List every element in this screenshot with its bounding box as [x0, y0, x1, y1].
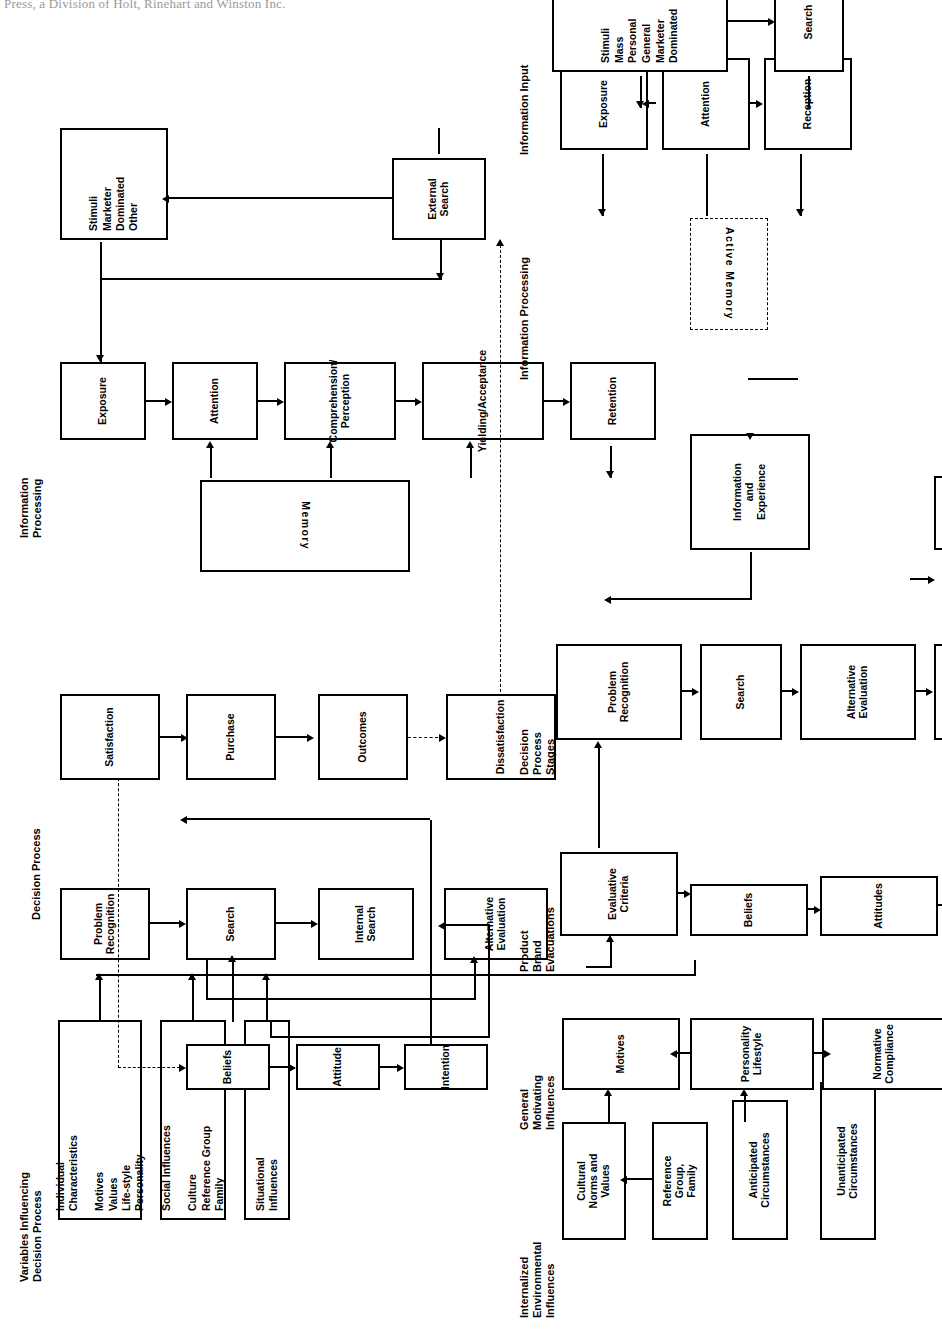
box-attitude: Attitude	[296, 1044, 380, 1090]
box-normative-compliance: Normative Compliance	[822, 1018, 942, 1090]
box-unanticipated-circumstances: Unanticipated Circumstances	[820, 1082, 876, 1240]
box-anticipated-circumstances: Anticipated Circumstances	[732, 1100, 788, 1240]
box-exposure: Exposure	[60, 362, 146, 440]
box-motives: Motives	[562, 1018, 680, 1090]
box-satisfaction: Satisfaction	[60, 694, 160, 780]
box-reference-group-family: Reference Group, Family	[652, 1122, 708, 1240]
heading-information-processing: Information Processing	[18, 478, 44, 539]
box-memory: Memory	[200, 480, 410, 572]
box-choice: Choice	[934, 644, 942, 740]
heading-general-motivating-influences: General Motivating Influences	[518, 1075, 557, 1130]
box-comprehension-perception: Comprehension/ Perception	[284, 362, 396, 440]
box-internal-search: Internal Search	[318, 888, 414, 960]
box-search: Search	[186, 888, 276, 960]
heading-internalized-environmental-influences: Internalized Environmental Influences	[518, 1242, 557, 1318]
box-search-input: Search	[774, 0, 844, 72]
box-memory-label: Memory	[299, 502, 311, 551]
box-active-memory-label: Active Memory	[723, 228, 735, 321]
heading-information-processing-b: Information Processing	[518, 257, 531, 380]
box-beliefs-b: Beliefs	[690, 884, 808, 936]
box-purchase: Purchase	[186, 694, 276, 780]
box-attention: Attention	[172, 362, 258, 440]
heading-product-brand-evacuations: Product Brand Evacuations	[518, 907, 557, 972]
box-information-and-experience: Information and Experience	[690, 434, 810, 550]
box-outcomes: Outcomes	[318, 694, 408, 780]
box-active-memory: Active Memory	[690, 218, 768, 330]
box-personality-lifestyle: Personality Lifestyle	[690, 1018, 814, 1090]
box-problem-recognition: Problem Recognition	[60, 888, 150, 960]
box-satisfaction-b: Satisfaction	[934, 476, 942, 550]
box-cultural-norms-values: Cultural Norms and Values	[562, 1122, 626, 1240]
heading-decision-process-stages: Decision Process Stages	[518, 729, 557, 775]
heading-decision-process: Decision Process	[30, 828, 43, 920]
box-stimuli-b: Stimuli Mass Personal General Marketer D…	[552, 0, 728, 72]
box-beliefs: Beliefs	[186, 1044, 270, 1090]
box-stimuli: Stimuli Marketer Dominated Other	[60, 128, 168, 240]
box-alternative-evaluation-b: Alternative Evaluation	[800, 644, 916, 740]
box-search-b: Search	[700, 644, 782, 740]
box-attitudes: Attitudes	[820, 876, 938, 936]
box-evaluative-criteria: Evaluative Criteria	[560, 852, 678, 936]
box-individual-characteristics: Individual Characteristics Motives Value…	[58, 1020, 142, 1220]
box-external-search: External Search	[392, 158, 486, 240]
box-intention: Intention	[404, 1044, 488, 1090]
box-problem-recognition-b: Problem Recognition	[556, 644, 682, 740]
heading-variables-influencing: Variables Influencing Decision Process	[18, 1172, 44, 1282]
diagram-a-consumer-decision-model: Variables Influencing Decision Process D…	[0, 0, 500, 1340]
diagram-b-howard-sheth-model: Internalized Environmental Influences Ge…	[500, 0, 942, 1340]
heading-information-input: Information Input	[518, 65, 531, 155]
